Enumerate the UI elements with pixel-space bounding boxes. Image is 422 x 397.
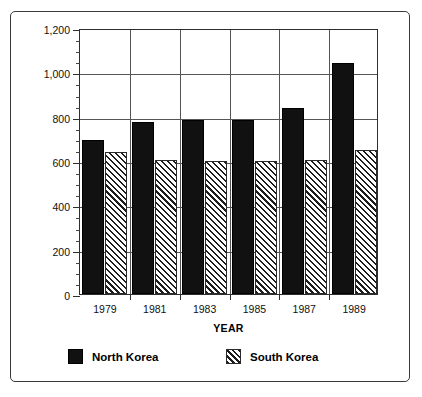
bar-south-korea-1985 <box>255 161 277 294</box>
legend-item-north-korea: North Korea <box>68 349 158 364</box>
bar-south-korea-1989 <box>355 150 377 294</box>
legend-label-north-korea: North Korea <box>92 351 158 363</box>
bar-north-korea-1989 <box>332 63 354 294</box>
chart-legend: North Korea South Korea <box>60 349 370 371</box>
x-tick-label: 1985 <box>243 303 266 315</box>
group-separator <box>329 30 330 294</box>
x-tick <box>230 294 231 300</box>
legend-item-south-korea: South Korea <box>226 349 318 364</box>
bar-north-korea-1983 <box>182 120 204 294</box>
group-separator <box>230 30 231 294</box>
group-separator <box>180 30 181 294</box>
group-separator <box>279 30 280 294</box>
x-tick-label: 1987 <box>293 303 316 315</box>
x-tick-label: 1981 <box>143 303 166 315</box>
legend-swatch-hatch-icon <box>226 349 241 364</box>
bar-south-korea-1979 <box>105 152 127 294</box>
x-tick-label: 1989 <box>342 303 365 315</box>
group-separator <box>130 30 131 294</box>
bar-north-korea-1985 <box>232 120 254 294</box>
x-tick-label: 1979 <box>93 303 116 315</box>
bar-north-korea-1987 <box>282 108 304 294</box>
legend-label-south-korea: South Korea <box>250 351 318 363</box>
x-tick-label: 1983 <box>193 303 216 315</box>
legend-swatch-solid-icon <box>68 349 83 364</box>
x-tick <box>329 294 330 300</box>
bar-south-korea-1981 <box>155 160 177 294</box>
bar-south-korea-1987 <box>305 160 327 294</box>
bar-south-korea-1983 <box>205 161 227 294</box>
x-tick <box>180 294 181 300</box>
bar-north-korea-1979 <box>82 140 104 294</box>
chart-figure: PERSONNEL IN THOUSANDS 02004006008001,00… <box>0 0 422 397</box>
x-axis-title: YEAR <box>79 322 378 334</box>
y-axis-title: PERSONNEL IN THOUSANDS <box>17 0 31 29</box>
x-tick <box>130 294 131 300</box>
bar-north-korea-1981 <box>132 122 154 294</box>
x-tick <box>279 294 280 300</box>
plot-area: 02004006008001,0001,200 1979198119831985… <box>79 29 378 295</box>
